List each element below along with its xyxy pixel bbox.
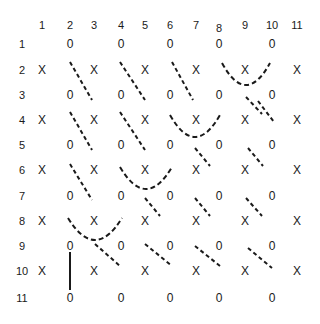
dashed-diagonal [172, 62, 193, 100]
dashed-diagonal [195, 148, 210, 166]
dashed-diagonal [248, 148, 263, 166]
dashed-arc [68, 218, 122, 240]
dashed-diagonal [120, 112, 145, 150]
grid-diagram: 12345678910111234567891011 0000000000000… [0, 0, 320, 324]
dashed-diagonal [195, 246, 220, 266]
dashed-diagonal [195, 198, 210, 216]
dashed-arc [170, 115, 220, 137]
dashed-diagonal [70, 62, 92, 100]
dashed-diagonal [70, 112, 92, 150]
dashed-diagonal [95, 244, 120, 266]
dashed-diagonal [120, 62, 145, 100]
dashed-diagonal [145, 244, 172, 266]
dashed-diagonal [246, 97, 262, 114]
dashed-diagonal [70, 164, 92, 200]
dashed-diagonal [248, 248, 272, 268]
dashed-arc [120, 167, 172, 189]
dashed-arc [222, 63, 270, 85]
dashed-diagonal [246, 198, 262, 216]
dashed-diagonal [145, 198, 160, 216]
connection-lines [0, 0, 320, 324]
dashed-diagonal [258, 101, 274, 122]
